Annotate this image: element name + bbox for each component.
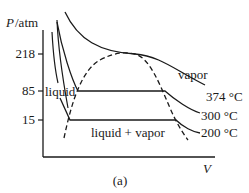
pv-phase-diagram: 218 85 15 P /atm V (a) liquid vapor liqu…: [0, 0, 249, 193]
tick-label-218: 218: [16, 46, 36, 61]
isotherm-label-300: 300 °C: [201, 108, 238, 123]
y-axis-label-symbol: P: [5, 15, 14, 30]
figure-caption: (a): [113, 173, 127, 188]
region-mixed-label: liquid + vapor: [91, 125, 165, 140]
isotherm-label-200: 200 °C: [201, 125, 238, 140]
tick-label-85: 85: [22, 83, 35, 98]
region-vapor-label: vapor: [178, 67, 208, 82]
tick-label-15: 15: [22, 112, 35, 127]
liquid-curve-low: [52, 32, 58, 83]
region-liquid-label: liquid: [45, 84, 76, 99]
y-axis-label-unit: /atm: [15, 15, 38, 30]
isotherm-label-374: 374 °C: [206, 89, 243, 104]
x-axis-label: V: [203, 161, 213, 176]
